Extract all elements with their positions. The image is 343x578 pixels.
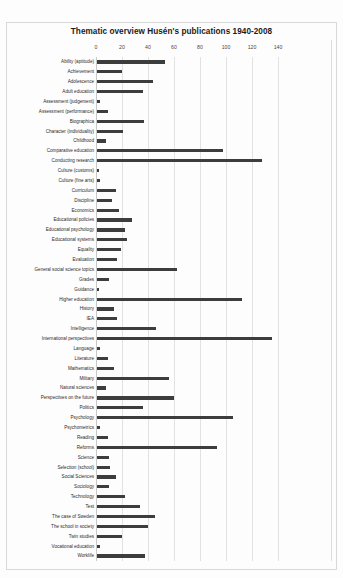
category-label: Worklife bbox=[8, 553, 94, 558]
category-label: IEA bbox=[8, 316, 94, 321]
category-label: Language bbox=[8, 346, 94, 351]
bar-row bbox=[96, 327, 156, 330]
category-label: Achievement bbox=[8, 69, 94, 74]
bar-row bbox=[96, 535, 122, 538]
bar-row bbox=[96, 298, 242, 301]
bar-row bbox=[96, 307, 114, 310]
bar-row bbox=[96, 248, 121, 251]
bar bbox=[96, 386, 106, 389]
bar bbox=[96, 248, 121, 251]
bar-row bbox=[96, 218, 132, 221]
category-label: International perspectives bbox=[8, 336, 94, 341]
y-axis-category-labels: Ability (aptitude)AchievementAdolescence… bbox=[8, 57, 94, 561]
bar bbox=[96, 80, 153, 83]
bar bbox=[96, 130, 123, 133]
bar bbox=[96, 90, 143, 93]
category-label: Guidance bbox=[8, 287, 94, 292]
category-label: Evaluation bbox=[8, 257, 94, 262]
plot-area bbox=[96, 57, 304, 561]
bar bbox=[96, 515, 155, 518]
category-label: Politics bbox=[8, 405, 94, 410]
x-tick-label-100: 100 bbox=[222, 44, 231, 50]
bar bbox=[96, 218, 132, 221]
category-label: Military bbox=[8, 376, 94, 381]
bar-row bbox=[96, 228, 125, 231]
x-axis-tick-labels: 020406080100120140 bbox=[96, 44, 304, 54]
bar-row bbox=[96, 485, 109, 488]
bar bbox=[96, 317, 117, 320]
bar bbox=[96, 307, 114, 310]
bar-row bbox=[96, 317, 117, 320]
bar bbox=[96, 327, 156, 330]
category-label: Higher education bbox=[8, 297, 94, 302]
bar bbox=[96, 525, 148, 528]
bar-row bbox=[96, 268, 177, 271]
gridline-80 bbox=[200, 57, 201, 561]
category-label: Adolescence bbox=[8, 79, 94, 84]
category-label: Intelligence bbox=[8, 326, 94, 331]
category-label: Educational policies bbox=[8, 217, 94, 222]
category-label: Reading bbox=[8, 435, 94, 440]
category-label: Discipline bbox=[8, 198, 94, 203]
category-label: Culture (fine arts) bbox=[8, 178, 94, 183]
x-tick-label-140: 140 bbox=[274, 44, 283, 50]
bar bbox=[96, 357, 108, 360]
bar-row bbox=[96, 258, 117, 261]
bar bbox=[96, 495, 125, 498]
gridline-60 bbox=[174, 57, 175, 561]
bar-row bbox=[96, 554, 145, 557]
category-label: Reforms bbox=[8, 445, 94, 450]
category-label: Comparative education bbox=[8, 148, 94, 153]
bar bbox=[96, 120, 144, 123]
bar bbox=[96, 535, 122, 538]
bar bbox=[96, 258, 117, 261]
category-label: Equality bbox=[8, 247, 94, 252]
bar bbox=[96, 456, 109, 459]
category-label: Grades bbox=[8, 277, 94, 282]
category-label: Conducting research bbox=[8, 158, 94, 163]
bar-row bbox=[96, 189, 116, 192]
bar bbox=[96, 110, 108, 113]
category-label: Literature bbox=[8, 356, 94, 361]
category-label: Psychology bbox=[8, 415, 94, 420]
bar bbox=[96, 60, 165, 63]
bar-row bbox=[96, 436, 108, 439]
x-tick-label-60: 60 bbox=[171, 44, 177, 50]
category-label: Science bbox=[8, 455, 94, 460]
category-label: Twin studies bbox=[8, 534, 94, 539]
y-axis-line bbox=[96, 57, 97, 561]
bar-row bbox=[96, 238, 127, 241]
bar-row bbox=[96, 130, 123, 133]
category-label: Curriculum bbox=[8, 188, 94, 193]
bar bbox=[96, 367, 114, 370]
bar-row bbox=[96, 505, 140, 508]
bar bbox=[96, 436, 108, 439]
bar-row bbox=[96, 337, 272, 340]
category-label: Character (individuality) bbox=[8, 129, 94, 134]
bar-row bbox=[96, 90, 143, 93]
x-tick-label-20: 20 bbox=[119, 44, 125, 50]
bar-row bbox=[96, 120, 144, 123]
category-label: The school in society bbox=[8, 524, 94, 529]
chart-title: Thematic overview Husén's publications 1… bbox=[0, 27, 343, 36]
bar-row bbox=[96, 475, 116, 478]
category-label: History bbox=[8, 306, 94, 311]
category-label: Assessment (judgement) bbox=[8, 99, 94, 104]
category-label: Technology bbox=[8, 494, 94, 499]
category-label: Biographica bbox=[8, 119, 94, 124]
bar bbox=[96, 238, 127, 241]
bar bbox=[96, 70, 122, 73]
category-label: Natural sciences bbox=[8, 385, 94, 390]
category-label: The case of Sweden bbox=[8, 514, 94, 519]
bar-row bbox=[96, 357, 108, 360]
bar bbox=[96, 396, 174, 399]
bar bbox=[96, 209, 119, 212]
bar-row bbox=[96, 416, 233, 419]
category-label: Assessment (performance) bbox=[8, 109, 94, 114]
category-label: Economics bbox=[8, 208, 94, 213]
x-tick-label-80: 80 bbox=[197, 44, 203, 50]
bar bbox=[96, 139, 106, 142]
category-label: Ability (aptitude) bbox=[8, 59, 94, 64]
category-label: Childhood bbox=[8, 138, 94, 143]
bar bbox=[96, 298, 242, 301]
